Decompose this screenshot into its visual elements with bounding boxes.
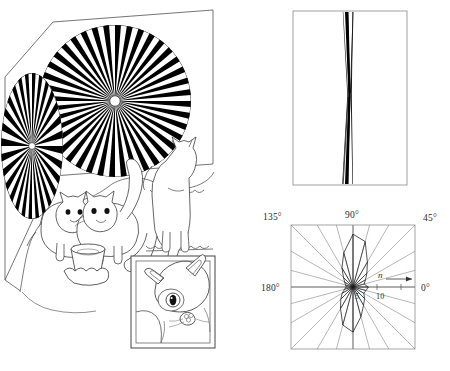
polar-label-135: 135°	[263, 212, 282, 222]
panel-bowtie-pattern	[285, 5, 415, 195]
figure-canvas: 135° 90° 45° 180° 0° 5 10 n	[0, 0, 450, 371]
polar-label-45: 45°	[423, 213, 437, 223]
polar-label-0: 0°	[421, 283, 430, 293]
polar-axis-label-n: n	[378, 270, 383, 280]
polar-tick-label-5: 5	[355, 292, 359, 301]
panel-cat-fan-illusion	[0, 0, 260, 371]
polar-tick-label-10: 10	[376, 292, 384, 301]
polar-label-180: 180°	[261, 283, 280, 293]
inset-cat-head	[131, 255, 215, 349]
polar-label-90: 90°	[345, 210, 359, 220]
large-fan-center-dot	[110, 96, 120, 106]
small-fan-center-dot	[29, 143, 36, 150]
